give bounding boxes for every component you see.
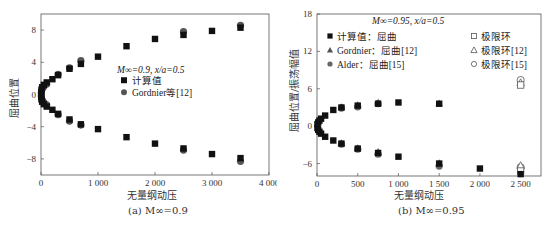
legend-label: Gordnier等[12] <box>132 87 192 98</box>
y-tick-label: −6 <box>302 159 312 169</box>
chart-a-caption: (a) M∞=0.9 <box>128 205 188 216</box>
square-marker <box>237 155 243 161</box>
triangle-marker <box>327 47 333 53</box>
x-tick-label: 2 500 <box>511 179 532 189</box>
legend-label: 计算值：屈曲 <box>337 31 397 42</box>
square-marker <box>322 112 328 118</box>
square-marker <box>330 137 336 143</box>
circle-marker <box>471 61 476 66</box>
y-tick-label: 18 <box>303 9 313 19</box>
chart-b-caption-text: (b) M∞=0.95 <box>398 205 465 216</box>
legend-label: 极限环 <box>481 31 511 42</box>
chart-annotation: M∞=0.9, x/a=0.5 <box>116 65 185 75</box>
square-marker <box>338 104 344 110</box>
y-tick-label: −8 <box>26 154 36 164</box>
square-marker <box>517 82 523 88</box>
square-marker <box>78 61 84 67</box>
square-marker <box>123 134 129 140</box>
circle-marker <box>327 61 332 66</box>
square-marker <box>517 171 523 177</box>
y-tick-label: 12 <box>303 46 312 56</box>
square-marker <box>95 126 101 132</box>
square-marker <box>66 116 72 122</box>
legend-label: 极限环[12] <box>481 45 527 56</box>
square-marker <box>436 160 442 166</box>
square-marker <box>436 101 442 107</box>
x-tick-label: 3 000 <box>202 178 223 188</box>
legend-label: 计算值 <box>132 75 162 86</box>
y-tick-label: 8 <box>32 25 37 35</box>
square-marker <box>152 140 158 146</box>
square-marker <box>123 43 129 49</box>
square-marker <box>237 24 243 30</box>
x-tick-label: 2 000 <box>470 179 491 189</box>
square-marker <box>66 66 72 72</box>
legend-label: 极限环[15] <box>481 59 527 70</box>
chart-b-ylabel: 屈曲位置/振荡幅值 <box>286 49 301 132</box>
square-marker <box>55 72 61 78</box>
x-tick-label: 500 <box>351 179 365 189</box>
y-tick-label: 6 <box>308 84 313 94</box>
x-tick-label: 0 <box>39 178 44 188</box>
square-marker <box>395 99 401 105</box>
square-marker <box>55 111 61 117</box>
square-marker <box>44 79 50 85</box>
chart-annotation: M∞=0.95, x/a=0.5 <box>371 16 445 26</box>
y-tick-label: 4 <box>32 57 37 67</box>
chart-a-xlabel: 无量纲动压 <box>127 187 177 202</box>
series-4 <box>517 79 524 169</box>
x-tick-label: 0 <box>315 179 320 189</box>
square-marker <box>49 76 55 82</box>
square-marker <box>209 28 215 34</box>
square-marker <box>355 145 361 151</box>
square-marker <box>95 53 101 59</box>
legend-label: Alder：屈曲[15] <box>337 60 404 70</box>
legend-label: Gordnier：屈曲[12] <box>337 46 417 56</box>
square-marker <box>322 134 328 140</box>
square-marker <box>477 165 483 171</box>
square-marker <box>330 107 336 113</box>
square-marker <box>44 103 50 109</box>
chart-a-ylabel: 屈曲位置 <box>6 78 21 118</box>
series-5 <box>517 76 524 170</box>
y-tick-label: −4 <box>26 122 36 132</box>
square-marker <box>471 33 476 38</box>
square-marker <box>209 151 215 157</box>
chart-a-caption-text: (a) M∞=0.9 <box>128 205 188 216</box>
square-marker <box>355 102 361 108</box>
square-marker <box>121 77 127 83</box>
y-tick-label: 0 <box>308 121 313 131</box>
series-0 <box>314 99 524 177</box>
square-marker <box>152 36 158 42</box>
circle-marker <box>121 89 127 95</box>
square-marker <box>180 32 186 38</box>
square-marker <box>395 153 401 159</box>
chart-b-caption: (b) M∞=0.95 <box>398 205 465 216</box>
triangle-marker <box>471 47 477 53</box>
square-marker <box>375 101 381 107</box>
square-marker <box>327 33 332 38</box>
series-2 <box>338 100 443 170</box>
square-marker <box>49 107 55 113</box>
x-tick-label: 4 000 <box>259 178 277 188</box>
series-3 <box>517 82 523 174</box>
series-1 <box>338 99 443 166</box>
square-marker <box>375 150 381 156</box>
chart-b-xlabel: 无量纲动压 <box>394 187 444 202</box>
square-marker <box>338 140 344 146</box>
square-marker <box>180 145 186 151</box>
square-marker <box>78 121 84 127</box>
y-tick-label: 0 <box>32 90 37 100</box>
x-tick-label: 1 000 <box>88 178 109 188</box>
